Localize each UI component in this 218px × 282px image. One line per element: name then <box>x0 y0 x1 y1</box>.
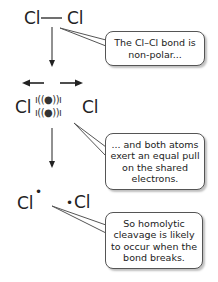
chlorine-atom-left: Cl <box>24 10 41 27</box>
chlorine-atom-right: Cl <box>82 99 99 116</box>
chlorine-atom-right: Cl <box>67 10 84 27</box>
callout-text: ... and both atoms exert an equal pull o… <box>110 139 200 185</box>
chlorine-atom-left: Cl <box>15 99 32 116</box>
chlorine-radical-right: Cl <box>74 194 91 211</box>
chlorine-radical-left: Cl <box>17 195 34 212</box>
callout-equal-pull: ... and both atoms exert an equal pull o… <box>105 133 205 190</box>
callout-text: So homolytic cleavage is likely to occur… <box>110 218 198 264</box>
callout-homolytic: So homolytic cleavage is likely to occur… <box>105 212 203 269</box>
callout-text: The Cl–Cl bond is non-polar... <box>110 37 200 60</box>
callout-nonpolar: The Cl–Cl bond is non-polar... <box>105 31 205 66</box>
electron-pair-bottom: ı((●))ı <box>35 107 61 118</box>
radical-dot-right: • <box>66 196 73 210</box>
electron-pair-top: ı((●))ı <box>35 94 61 105</box>
radical-dot-left: • <box>35 185 42 199</box>
